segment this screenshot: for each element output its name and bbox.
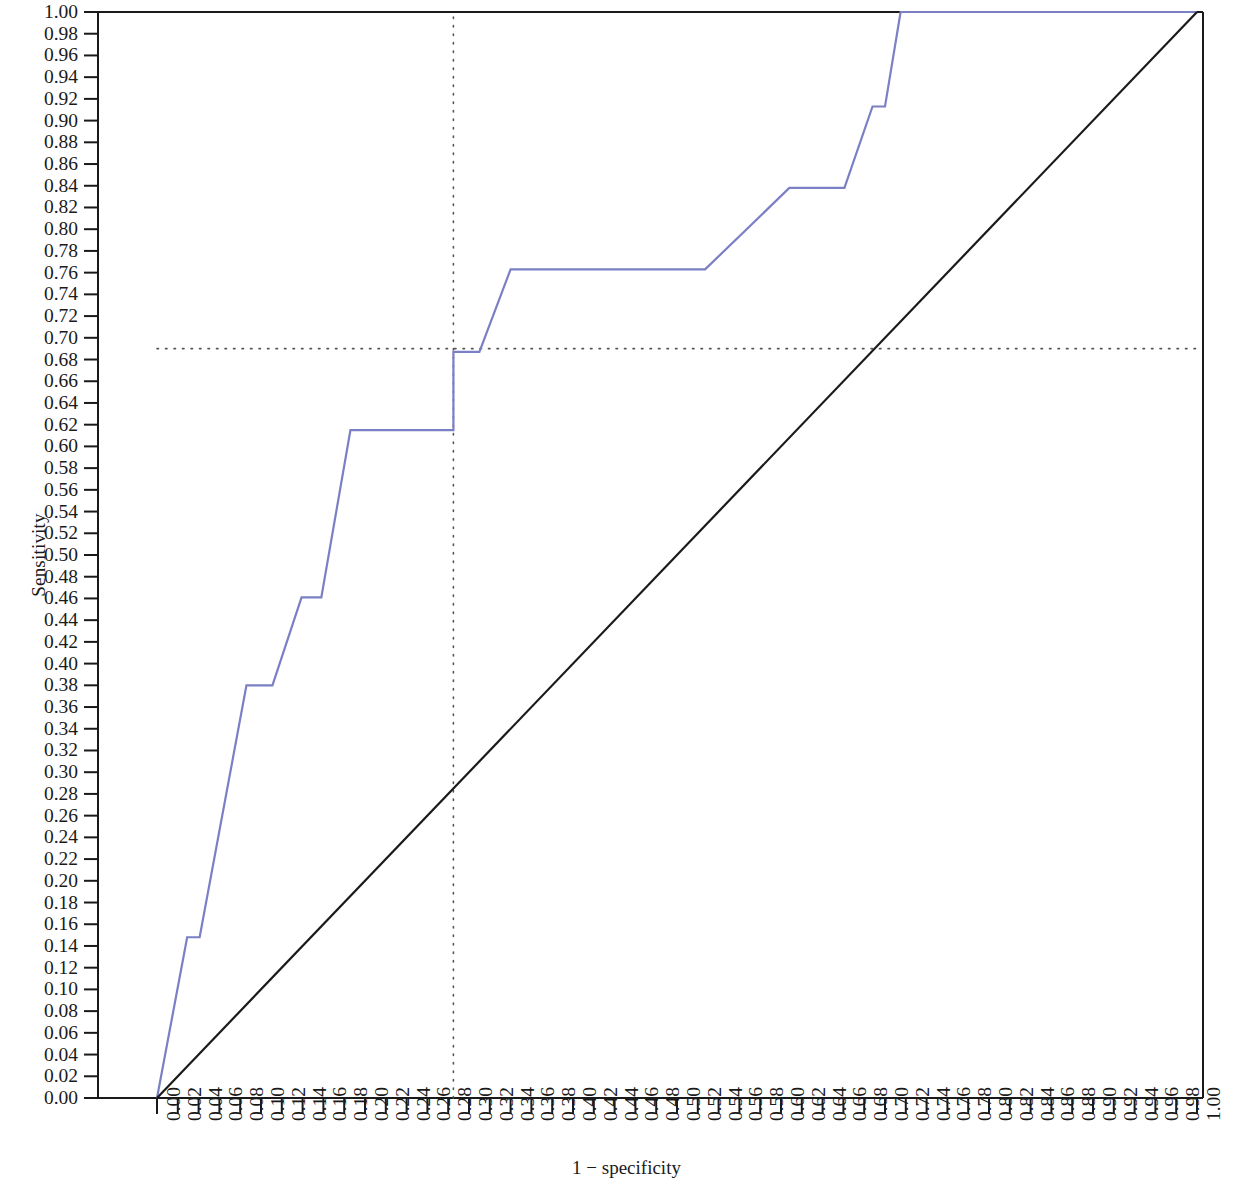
x-tick-label: 0.28 [455,1087,475,1121]
x-tick-label: 0.84 [1038,1087,1058,1121]
x-tick-label: 0.04 [206,1087,226,1121]
x-tick-label: 0.96 [1162,1087,1182,1121]
x-tick-label: 0.10 [268,1087,288,1121]
x-tick-label: 0.12 [289,1087,309,1121]
x-tick-label: 0.60 [788,1087,808,1121]
x-tick-label: 0.76 [954,1087,974,1121]
x-tick-label: 0.32 [497,1087,517,1121]
x-tick-label: 0.08 [247,1087,267,1121]
x-tick-label: 0.18 [351,1087,371,1121]
x-tick-label: 0.22 [393,1087,413,1121]
roc-chart-figure: Sensitivity 1.000.980.960.940.920.900.88… [0,0,1253,1187]
x-axis-title: 1 − specificity [0,1157,1253,1179]
x-tick-label: 1.00 [1204,1087,1224,1121]
x-tick-label: 0.66 [850,1087,870,1121]
x-tick-label: 0.26 [434,1087,454,1121]
x-tick-label: 0.44 [622,1087,642,1121]
x-tick-label: 0.20 [372,1087,392,1121]
x-tick-label: 0.50 [684,1087,704,1121]
x-tick-label: 0.52 [705,1087,725,1121]
x-tick-label: 0.34 [518,1087,538,1121]
x-tick-label: 0.38 [559,1087,579,1121]
x-tick-label: 0.06 [226,1087,246,1121]
x-tick-label: 0.54 [726,1087,746,1121]
x-tick-label: 0.70 [892,1087,912,1121]
x-tick-label: 0.72 [913,1087,933,1121]
x-tick-label: 0.40 [580,1087,600,1121]
x-axis-tick-labels: 0.000.020.040.060.080.100.120.140.160.18… [0,0,1253,1187]
x-tick-label: 0.24 [414,1087,434,1121]
x-tick-label: 0.46 [642,1087,662,1121]
x-tick-label: 0.64 [830,1087,850,1121]
x-tick-label: 0.74 [934,1087,954,1121]
x-tick-label: 0.90 [1100,1087,1120,1121]
x-tick-label: 0.14 [310,1087,330,1121]
x-tick-label: 0.48 [663,1087,683,1121]
x-tick-label: 0.58 [767,1087,787,1121]
x-tick-label: 0.78 [975,1087,995,1121]
x-tick-label: 0.42 [601,1087,621,1121]
x-tick-label: 0.62 [809,1087,829,1121]
x-tick-label: 0.98 [1183,1087,1203,1121]
x-tick-label: 0.36 [538,1087,558,1121]
x-tick-label: 0.56 [746,1087,766,1121]
x-tick-label: 0.68 [871,1087,891,1121]
x-tick-label: 0.94 [1142,1087,1162,1121]
x-tick-label: 0.02 [185,1087,205,1121]
x-tick-label: 0.80 [996,1087,1016,1121]
x-tick-label: 0.92 [1121,1087,1141,1121]
x-tick-label: 0.88 [1079,1087,1099,1121]
x-tick-label: 0.16 [330,1087,350,1121]
x-tick-label: 0.30 [476,1087,496,1121]
x-tick-label: 0.00 [164,1087,184,1121]
x-tick-label: 0.82 [1017,1087,1037,1121]
x-tick-label: 0.86 [1058,1087,1078,1121]
